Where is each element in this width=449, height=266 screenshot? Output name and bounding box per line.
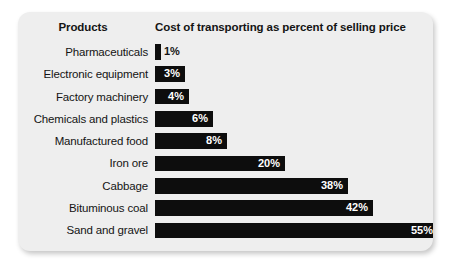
category-label: Chemicals and plastics xyxy=(18,108,148,130)
chart-row: Electronic equipment3% xyxy=(18,63,433,85)
bar-value-label: 55% xyxy=(155,223,433,239)
chart-row: Cabbage38% xyxy=(18,175,433,197)
category-label: Sand and gravel xyxy=(18,219,148,241)
bar-value-label: 42% xyxy=(155,200,368,216)
category-label: Factory machinery xyxy=(18,86,148,108)
chart-row: Iron ore20% xyxy=(18,152,433,174)
bar-value-label: 38% xyxy=(155,178,343,194)
chart-row: Bituminous coal42% xyxy=(18,197,433,219)
chart-row: Pharmaceuticals1% xyxy=(18,41,433,63)
bar-area: 20% xyxy=(155,152,433,174)
column-header-products: Products xyxy=(18,21,148,33)
bar-chart-rows: Pharmaceuticals1%Electronic equipment3%F… xyxy=(18,41,433,242)
bar-value-label: 3% xyxy=(155,66,180,82)
bar-value-label: 20% xyxy=(155,156,280,172)
bar-area: 55% xyxy=(155,219,433,241)
category-label: Manufactured food xyxy=(18,130,148,152)
chart-row: Chemicals and plastics6% xyxy=(18,108,433,130)
bar-area: 1% xyxy=(155,41,433,63)
category-label: Cabbage xyxy=(18,175,148,197)
chart-row: Factory machinery4% xyxy=(18,86,433,108)
bar-area: 38% xyxy=(155,175,433,197)
bar xyxy=(155,44,161,60)
bar-value-label: 1% xyxy=(164,44,180,60)
category-label: Pharmaceuticals xyxy=(18,41,148,63)
chart-row: Sand and gravel55% xyxy=(18,219,433,241)
bar-value-label: 8% xyxy=(155,133,222,149)
category-label: Electronic equipment xyxy=(18,63,148,85)
category-label: Iron ore xyxy=(18,152,148,174)
chart-card: Products Cost of transporting as percent… xyxy=(18,12,433,251)
bar-area: 8% xyxy=(155,130,433,152)
bar-area: 6% xyxy=(155,108,433,130)
category-label: Bituminous coal xyxy=(18,197,148,219)
chart-header: Products Cost of transporting as percent… xyxy=(18,21,433,41)
bar-value-label: 6% xyxy=(155,111,208,127)
bar-value-label: 4% xyxy=(155,89,184,105)
column-header-measure: Cost of transporting as percent of selli… xyxy=(155,21,406,33)
bar-area: 3% xyxy=(155,63,433,85)
bar-area: 42% xyxy=(155,197,433,219)
chart-row: Manufactured food8% xyxy=(18,130,433,152)
bar-area: 4% xyxy=(155,86,433,108)
